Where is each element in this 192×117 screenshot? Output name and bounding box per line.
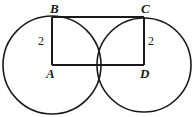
geometry-canvas bbox=[0, 0, 192, 117]
vertex-label-d: D bbox=[140, 67, 149, 80]
measure-label-cd: 2 bbox=[148, 35, 154, 47]
measure-label-ab: 2 bbox=[38, 35, 44, 47]
geometry-figure: B C A D 2 2 bbox=[0, 0, 192, 117]
vertex-label-c: C bbox=[141, 2, 150, 15]
vertex-label-b: B bbox=[50, 2, 59, 15]
vertex-label-a: A bbox=[46, 67, 55, 80]
